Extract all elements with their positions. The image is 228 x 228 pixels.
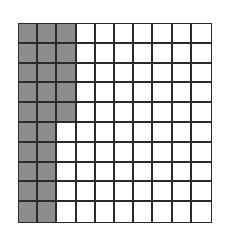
grid-cell [115,182,134,202]
grid-cell [173,64,192,84]
grid-cell [173,44,192,64]
grid-cell [134,163,153,183]
grid-cell [173,83,192,103]
grid-cell-shaded [19,103,38,123]
grid-cell [192,83,211,103]
grid-cell [173,143,192,163]
grid-cell [173,202,192,222]
grid-cell [192,123,211,143]
grid-cell-shaded [19,44,38,64]
grid-cell [153,202,172,222]
grid-cell [77,123,96,143]
grid-cell [77,202,96,222]
grid-cell [96,44,115,64]
grid-cell [96,182,115,202]
grid-cell-shaded [38,123,57,143]
grid-cell [115,143,134,163]
grid-cell [153,123,172,143]
grid-cell [115,163,134,183]
grid-cell [153,163,172,183]
grid-cell-shaded [57,83,76,103]
grid-cell [173,123,192,143]
grid-cell [153,103,172,123]
grid-cell-shaded [19,163,38,183]
grid-cell [192,24,211,44]
grid-cell [192,44,211,64]
grid-cell-shaded [19,24,38,44]
grid-cell-shaded [19,182,38,202]
grid-cell-shaded [57,103,76,123]
grid-cell [192,182,211,202]
grid-cell [192,163,211,183]
grid-cell-shaded [19,123,38,143]
grid-cell [115,202,134,222]
grid-cell [173,163,192,183]
grid-cell-shaded [19,83,38,103]
grid-cell [153,44,172,64]
grid-cell [134,123,153,143]
grid-cell [173,182,192,202]
grid-cell-shaded [38,143,57,163]
grid-cell [134,103,153,123]
grid-cell [134,202,153,222]
grid-cell [96,202,115,222]
grid-cell [77,83,96,103]
grid-cell [96,64,115,84]
grid-cell-shaded [57,64,76,84]
grid-cell [192,103,211,123]
grid-cell [57,163,76,183]
grid-cell [115,24,134,44]
grid-cell [115,83,134,103]
grid-cell [77,163,96,183]
grid-cell [153,143,172,163]
grid-cell [115,123,134,143]
grid-cell [134,182,153,202]
grid-cell [134,143,153,163]
grid-cell [77,44,96,64]
grid-cell-shaded [57,44,76,64]
grid-cell [192,143,211,163]
grid-cell [57,143,76,163]
grid-cell [134,44,153,64]
grid-cell-shaded [38,24,57,44]
grid-cell [115,64,134,84]
grid-cell [153,83,172,103]
grid-cell-shaded [38,44,57,64]
grid-cell [153,182,172,202]
grid-cell-shaded [38,64,57,84]
grid-cell [173,103,192,123]
grid-cell [96,83,115,103]
grid-cell-shaded [38,182,57,202]
grid-cell [153,64,172,84]
grid-cell [173,24,192,44]
grid-cell [134,83,153,103]
grid-cell-shaded [38,83,57,103]
grid-cell-shaded [19,64,38,84]
grid-cell [134,24,153,44]
grid-cell-shaded [57,24,76,44]
grid-cell [96,24,115,44]
grid-cell-shaded [19,202,38,222]
grid-cell [57,202,76,222]
grid-cell [77,143,96,163]
grid-cell-shaded [38,103,57,123]
grid-cell [77,103,96,123]
hundred-grid [18,23,212,223]
grid-cell [77,24,96,44]
grid-cell [57,182,76,202]
grid-cell [134,64,153,84]
grid-cell-shaded [19,143,38,163]
grid-cell [192,202,211,222]
grid-cell [96,103,115,123]
grid-cell [115,44,134,64]
grid-cell [77,182,96,202]
grid-cell [115,103,134,123]
grid-cell [153,24,172,44]
grid-cell [57,123,76,143]
grid-cell [96,123,115,143]
grid-cell [77,64,96,84]
grid-cell-shaded [38,163,57,183]
grid-cell [192,64,211,84]
grid-cell-shaded [38,202,57,222]
grid-cell [96,143,115,163]
